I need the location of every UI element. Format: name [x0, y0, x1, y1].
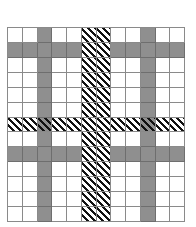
grid-cell-white: [156, 207, 171, 222]
grid-cell-white: [8, 192, 23, 207]
grid-cell-hatched: [82, 162, 97, 177]
grid-cell-gray: [38, 207, 53, 222]
grid-cell-white: [67, 207, 82, 222]
grid-cell-white: [156, 177, 171, 192]
grid-cell-white: [170, 192, 185, 207]
grid-cell-hatched: [111, 118, 126, 133]
grid-cell-white: [126, 73, 141, 88]
grid-cell-white: [23, 207, 38, 222]
grid-cell-hatched: [97, 147, 112, 162]
grid-cell-gray: [38, 162, 53, 177]
grid-cell-white: [126, 177, 141, 192]
grid-cell-white: [170, 207, 185, 222]
grid-cell-white: [23, 177, 38, 192]
grid-cell-gray: [170, 147, 185, 162]
grid-cell-white: [23, 162, 38, 177]
grid-cell-hatched: [82, 58, 97, 73]
grid-cell-hatched: [97, 192, 112, 207]
grid-cell-white: [156, 132, 171, 147]
grid-cell-gray: [52, 43, 67, 58]
grid-cell-white: [52, 58, 67, 73]
grid-cell-hatched: [82, 192, 97, 207]
grid-cell-gray: [52, 147, 67, 162]
grid-cell-gray: [8, 43, 23, 58]
grid-cell-gray: [141, 132, 156, 147]
grid-cell-white: [8, 58, 23, 73]
grid-cell-gray: [141, 177, 156, 192]
grid-cell-gray: [141, 28, 156, 43]
grid-cell-white: [111, 162, 126, 177]
grid-cell-white: [111, 58, 126, 73]
grid-cell-white: [67, 28, 82, 43]
grid-cell-white: [156, 88, 171, 103]
grid-cell-hatched: [156, 118, 171, 133]
grid-cell-white: [170, 132, 185, 147]
grid-cell-gray: [67, 147, 82, 162]
grid-cell-gray: [38, 177, 53, 192]
grid-cell-hatched: [97, 103, 112, 118]
grid-cell-hatched: [97, 88, 112, 103]
grid-cell-white: [170, 177, 185, 192]
grid-cell-hatched: [126, 118, 141, 133]
grid-cell-white: [8, 88, 23, 103]
grid-cell-gray: [141, 103, 156, 118]
grid-cell-hatched: [97, 73, 112, 88]
grid-cell-gray: [141, 192, 156, 207]
grid-cell-white: [8, 207, 23, 222]
grid-cell-gray: [141, 162, 156, 177]
grid-cell-white: [111, 88, 126, 103]
grid-cell-hatched: [97, 118, 112, 133]
grid-cell-white: [170, 103, 185, 118]
grid-cell-white: [170, 28, 185, 43]
grid-cell-gray: [67, 43, 82, 58]
grid-cell-hatched: [97, 162, 112, 177]
grid-cell-hatched: [97, 58, 112, 73]
grid-cell-gray: [38, 28, 53, 43]
grid-cell-white: [111, 132, 126, 147]
grid-cell-hatched: [67, 118, 82, 133]
grid-cell-white: [126, 192, 141, 207]
grid-cell-gray: [38, 132, 53, 147]
grid-cell-hatched: [82, 103, 97, 118]
grid-cell-hatched: [82, 73, 97, 88]
grid-cell-white: [52, 162, 67, 177]
grid-cell-white: [67, 162, 82, 177]
grid-cell-white: [67, 192, 82, 207]
grid-cell-white: [170, 58, 185, 73]
grid-cell-white: [52, 28, 67, 43]
grid-cell-white: [111, 192, 126, 207]
grid-cell-gray: [38, 73, 53, 88]
grid-cell-gray: [111, 147, 126, 162]
grid-cell-hatched: [97, 132, 112, 147]
grid-cell-white: [111, 73, 126, 88]
grid-cell-hatched: [97, 43, 112, 58]
grid-cell-white: [156, 192, 171, 207]
grid-cell-white: [8, 103, 23, 118]
grid-cell-white: [8, 132, 23, 147]
grid-cell-gray: [141, 73, 156, 88]
grid-cell-white: [23, 103, 38, 118]
grid-cell-white: [67, 132, 82, 147]
grid-cell-gray: [141, 147, 156, 162]
grid-cell-gray: [141, 43, 156, 58]
grid-cell-hatched-on-gray: [38, 118, 53, 133]
grid-cell-gray: [38, 43, 53, 58]
grid-cell-hatched: [82, 177, 97, 192]
grid-cell-gray: [38, 103, 53, 118]
grid-cell-white: [126, 162, 141, 177]
grid-cell-white: [67, 58, 82, 73]
grid-cell-white: [52, 88, 67, 103]
grid-cell-white: [156, 103, 171, 118]
grid-cell-white: [8, 73, 23, 88]
grid-cell-white: [126, 103, 141, 118]
grid-cell-gray: [141, 88, 156, 103]
grid-cell-white: [8, 28, 23, 43]
grid-cell-white: [111, 103, 126, 118]
grid-cell-white: [52, 132, 67, 147]
grid-cell-gray: [23, 147, 38, 162]
grid-cell-white: [8, 177, 23, 192]
grid-cell-hatched: [52, 118, 67, 133]
grid-cell-hatched: [23, 118, 38, 133]
grid-cell-gray: [23, 43, 38, 58]
grid-cell-gray: [156, 147, 171, 162]
